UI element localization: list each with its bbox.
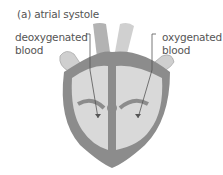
septum-node <box>107 103 117 113</box>
heart-illustration <box>0 0 223 175</box>
